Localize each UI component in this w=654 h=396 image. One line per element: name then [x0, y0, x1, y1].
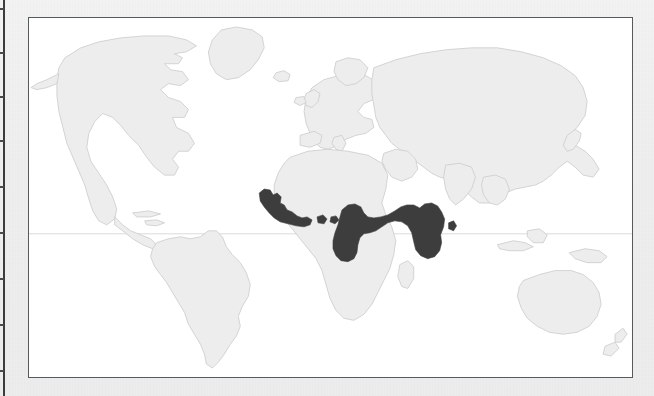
landmass-caribbean — [145, 220, 165, 226]
landmass-south-america — [151, 231, 251, 368]
scanned-page — [0, 0, 654, 396]
landmass-greenland — [208, 27, 264, 80]
landmass-north-america — [57, 36, 197, 225]
shaded-range-albertine-rift — [449, 221, 457, 231]
landmass-cuba — [133, 211, 161, 217]
landmass-alaska-aleutians — [31, 74, 59, 90]
map-frame — [28, 17, 633, 378]
landmass-indonesia — [497, 241, 533, 251]
landmass-ireland — [294, 97, 306, 106]
landmass-borneo — [527, 229, 547, 243]
landmass-new-guinea — [569, 249, 607, 263]
landmass-madagascar — [398, 261, 414, 289]
landmass-new-zealand — [615, 328, 627, 342]
page-spine-tick-marks — [0, 0, 4, 396]
landmass-australia — [517, 271, 601, 335]
landmass-iceland — [273, 71, 290, 82]
landmass-new-zealand-south — [603, 342, 619, 356]
world-map — [29, 18, 632, 377]
landmass-india — [444, 163, 476, 205]
